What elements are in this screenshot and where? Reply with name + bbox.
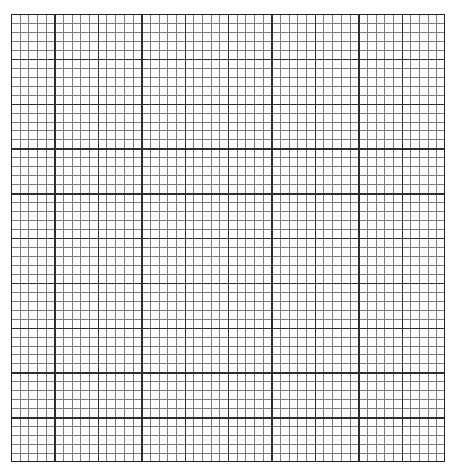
graph-paper-grid bbox=[11, 14, 445, 462]
graph-paper-page bbox=[0, 0, 459, 474]
grid-right-edge-line bbox=[444, 14, 445, 462]
grid-bottom-edge-line bbox=[11, 461, 445, 462]
